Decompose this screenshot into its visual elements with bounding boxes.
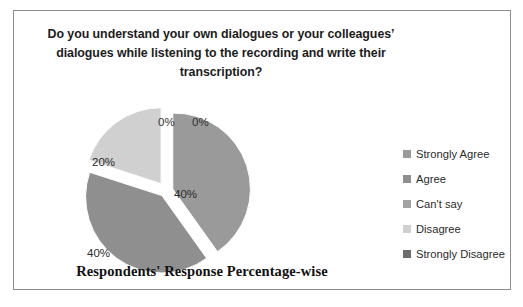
legend-label: Strongly Disagree (416, 248, 505, 260)
figure-frame: Do you understand your own dialogues or … (13, 10, 511, 290)
pie-chart-figure: Do you understand your own dialogues or … (0, 0, 523, 307)
legend-label: Strongly Agree (416, 148, 489, 160)
legend-swatch-icon (403, 200, 411, 208)
legend-item-strongly-disagree: Strongly Disagree (403, 241, 521, 266)
pie-label-cant-say: 0% (158, 116, 175, 128)
legend-item-agree: Agree (403, 166, 521, 191)
legend-swatch-icon (403, 250, 411, 258)
legend-item-disagree: Disagree (403, 216, 521, 241)
legend-label: Disagree (416, 223, 461, 235)
legend-label: Can't say (416, 198, 462, 210)
legend-swatch-icon (403, 150, 411, 158)
legend-item-cant-say: Can't say (403, 191, 521, 216)
chart-title: Do you understand your own dialogues or … (40, 25, 402, 82)
pie-label-agree: 40% (87, 247, 110, 259)
chart-legend: Strongly Agree Agree Can't say Disagree … (403, 141, 521, 266)
legend-label: Agree (416, 173, 446, 185)
legend-item-strongly-agree: Strongly Agree (403, 141, 521, 166)
pie-label-strongly-disagree: 0% (192, 116, 209, 128)
figure-caption: Respondents' Response Percentage-wise (52, 263, 352, 280)
pie-label-strongly-agree: 40% (174, 188, 197, 200)
legend-swatch-icon (403, 175, 411, 183)
pie-slice-disagree (89, 108, 161, 184)
pie-label-disagree: 20% (92, 156, 115, 168)
legend-swatch-icon (403, 225, 411, 233)
